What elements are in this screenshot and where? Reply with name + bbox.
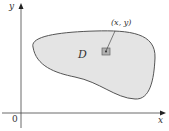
- point-label: (x, y): [111, 19, 131, 27]
- region-label: D: [78, 49, 87, 60]
- y-axis-label: y: [9, 2, 14, 11]
- y-axis-arrow-icon: [19, 3, 24, 9]
- region-d: [33, 31, 155, 99]
- origin-label: 0: [12, 115, 18, 124]
- diagram-canvas: [0, 0, 169, 131]
- x-axis-label: x: [158, 116, 163, 125]
